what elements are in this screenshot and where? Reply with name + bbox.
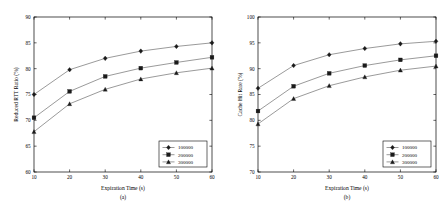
data-point-300000 <box>255 122 259 126</box>
x-tick-label: 30 <box>103 174 109 180</box>
y-tick-label: 100 <box>246 14 254 20</box>
legend-label-300000: 300000 <box>178 160 194 165</box>
y-tick-label: 85 <box>25 40 31 46</box>
data-point-100000 <box>68 67 72 72</box>
x-tick-label: 60 <box>209 174 215 180</box>
chart-svg-b: 102030405060707580859095100Expiration Ti… <box>224 0 447 210</box>
data-point-100000 <box>210 41 214 46</box>
data-point-100000 <box>32 92 36 97</box>
legend-label-100000: 100000 <box>178 145 194 150</box>
x-axis-title: Expiration Time (s) <box>101 185 145 192</box>
x-tick-label: 60 <box>433 174 439 180</box>
chart-panel-a: 10203040506060657075808590Expiration Tim… <box>0 0 224 210</box>
y-tick-label: 70 <box>25 117 31 123</box>
series-line-100000 <box>34 43 212 95</box>
data-point-200000 <box>434 54 438 58</box>
x-tick-label: 10 <box>255 174 261 180</box>
series-line-200000 <box>258 56 436 111</box>
data-point-200000 <box>327 71 331 75</box>
y-tick-label: 75 <box>25 91 31 97</box>
data-point-200000 <box>103 75 107 79</box>
data-point-100000 <box>291 63 295 68</box>
data-point-300000 <box>103 87 107 91</box>
x-tick-label: 40 <box>138 174 144 180</box>
data-point-200000 <box>256 109 260 113</box>
y-tick-label: 90 <box>25 14 31 20</box>
data-point-200000 <box>175 61 179 65</box>
panel-subcaption: (b) <box>343 194 350 201</box>
y-tick-label: 80 <box>249 117 255 123</box>
legend-marker-200000 <box>167 153 171 157</box>
y-tick-label: 90 <box>249 66 255 72</box>
data-point-200000 <box>398 58 402 62</box>
data-point-100000 <box>256 86 260 91</box>
data-point-100000 <box>139 49 143 54</box>
x-tick-label: 40 <box>362 174 368 180</box>
data-point-100000 <box>103 56 107 61</box>
panel-subcaption: (a) <box>120 194 126 201</box>
legend-marker-200000 <box>390 153 394 157</box>
x-axis-title: Expiration Time (s) <box>325 185 369 192</box>
x-tick-label: 20 <box>291 174 297 180</box>
chart-svg-a: 10203040506060657075808590Expiration Tim… <box>0 0 224 210</box>
data-point-200000 <box>32 116 36 120</box>
legend-label-200000: 200000 <box>402 153 418 158</box>
y-tick-label: 95 <box>249 40 255 46</box>
y-tick-label: 65 <box>25 143 31 149</box>
legend-label-100000: 100000 <box>402 145 418 150</box>
y-tick-label: 80 <box>25 66 31 72</box>
y-tick-label: 70 <box>249 169 255 175</box>
data-point-200000 <box>210 55 214 59</box>
y-tick-label: 75 <box>249 143 255 149</box>
y-axis-title: Cache Hit Rate (%) <box>237 72 244 116</box>
series-line-200000 <box>34 57 212 117</box>
series-line-300000 <box>258 66 436 124</box>
data-point-300000 <box>68 102 72 106</box>
x-tick-label: 10 <box>31 174 37 180</box>
legend-label-300000: 300000 <box>402 160 418 165</box>
series-line-300000 <box>34 68 212 132</box>
data-point-100000 <box>398 42 402 47</box>
data-point-100000 <box>174 44 178 49</box>
x-tick-label: 20 <box>67 174 73 180</box>
y-axis-title: Reduced RTT Ratio (%) <box>13 67 20 122</box>
legend-label-200000: 200000 <box>178 153 194 158</box>
y-tick-label: 60 <box>25 169 31 175</box>
data-point-300000 <box>291 97 295 101</box>
data-point-100000 <box>327 52 331 57</box>
data-point-200000 <box>139 66 143 70</box>
x-tick-label: 50 <box>174 174 180 180</box>
data-point-200000 <box>291 84 295 88</box>
x-tick-label: 30 <box>326 174 332 180</box>
x-tick-label: 50 <box>397 174 403 180</box>
figure-container: 10203040506060657075808590Expiration Tim… <box>0 0 447 210</box>
data-point-200000 <box>362 64 366 68</box>
data-point-100000 <box>362 46 366 51</box>
data-point-200000 <box>68 90 72 94</box>
y-tick-label: 85 <box>249 91 255 97</box>
chart-panel-b: 102030405060707580859095100Expiration Ti… <box>224 0 447 210</box>
